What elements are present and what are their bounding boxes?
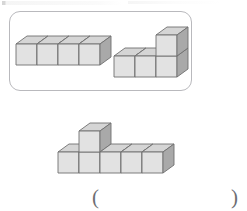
six-cube-solid-with-one-on-top: [58, 123, 174, 173]
solid-l-shaped-four-cube: [110, 10, 196, 88]
scan-artifact-top-right: [128, 1, 223, 4]
cube-3-front-face: [156, 35, 177, 56]
cube-4-front-face: [121, 152, 142, 173]
scan-artifact-top: [2, 1, 122, 5]
cube-0-front-face: [16, 44, 37, 65]
solid-four-cube-row: [12, 14, 112, 76]
l-shaped-four-cube-solid: [114, 27, 188, 77]
cube-5-front-face: [142, 152, 163, 173]
answer-blank-field[interactable]: [104, 183, 230, 211]
cube-1-front-face: [79, 152, 100, 173]
cube-2-front-face: [156, 56, 177, 77]
cube-0-front-face: [58, 152, 79, 173]
cube-3-front-face: [79, 44, 100, 65]
four-cube-row: [16, 36, 111, 65]
answer-paren-close: ): [231, 183, 238, 211]
cube-3-front-face: [100, 152, 121, 173]
answer-row: ( ): [0, 183, 247, 211]
solid-six-cube-with-one-on-top: [52, 104, 180, 186]
cube-0-front-face: [114, 56, 135, 77]
cube-2-front-face: [58, 44, 79, 65]
answer-paren-open: (: [92, 183, 99, 211]
cube-1-front-face: [135, 56, 156, 77]
cube-1-front-face: [37, 44, 58, 65]
cube-2-front-face: [79, 131, 100, 152]
